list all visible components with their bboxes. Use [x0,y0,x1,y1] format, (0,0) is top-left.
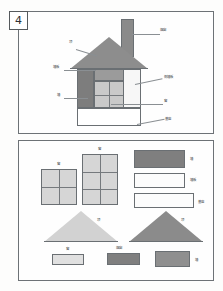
part-roof-light-outline [44,241,118,242]
part-window-small [41,169,77,205]
label-roof: 顶 [69,41,72,44]
part-wall-panel [134,173,185,188]
label-base: 基座 [165,118,171,121]
part-strip-dark-label: 烟囱 [116,247,122,250]
page-number: 4 [15,15,22,26]
roof-triangle [70,37,148,69]
part-base-strip-label: 基座 [198,201,204,204]
part-window-tall-label: 窗 [98,148,101,151]
label-chimney: 烟囱 [160,29,166,32]
part-roof-dark [129,211,203,242]
part-window-tall [82,154,118,205]
label-gable: 墙板 [53,66,59,69]
leader-window [111,104,163,105]
part-roof-light [44,211,118,242]
part-strip-light-label: 窗 [66,248,69,251]
diagram-page: 4 烟囱 顶 墙板 墙 侧墙板 [0,0,223,291]
bottom-panel-parts-inventory: 窗 窗 墙 墙板 基座 顶 顶 窗 烟囱 墙 [18,140,214,281]
label-window: 窗 [164,100,167,103]
left-wall-panel [77,69,94,108]
part-strip-medium-label: 墙 [195,259,198,262]
window-small-line-v [59,170,60,204]
label-side-panel: 侧墙板 [164,76,174,79]
label-wall: 墙 [57,94,60,97]
part-roof-dark-label: 顶 [181,219,184,222]
part-wall-dark-label: 墙 [190,158,193,161]
part-roof-dark-outline [129,241,203,242]
top-panel-house-assembly: 烟囱 顶 墙板 墙 侧墙板 窗 基座 [18,11,214,134]
foundation-strip [77,108,141,126]
window-tall-line-v [100,155,101,204]
window-grid-line-v [109,82,110,107]
part-base-strip [134,193,194,208]
page-number-badge: 4 [9,11,28,30]
part-wall-panel-label: 墙板 [190,179,196,182]
leader-chimney [132,34,160,35]
part-roof-light-label: 顶 [97,219,100,222]
leader-gable [64,70,96,71]
part-strip-medium [155,251,190,267]
part-wall-dark [134,150,185,168]
part-strip-light [52,254,84,265]
leader-wall [64,98,88,99]
part-strip-dark [107,253,140,265]
upper-wall-panel [94,69,124,81]
leader-base [137,119,165,125]
part-window-small-label: 窗 [57,163,60,166]
